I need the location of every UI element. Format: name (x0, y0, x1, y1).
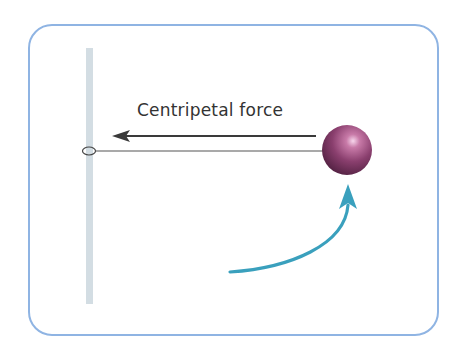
centripetal-force-arrow (112, 130, 316, 142)
ball (322, 125, 372, 175)
pole (86, 48, 93, 304)
centripetal-diagram (0, 0, 471, 359)
centripetal-force-label: Centripetal force (137, 100, 283, 120)
motion-arrow (230, 184, 357, 272)
